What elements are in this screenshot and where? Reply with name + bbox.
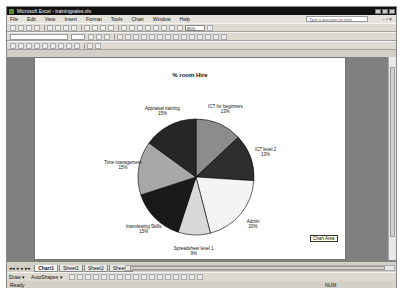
- reply-changes-icon[interactable]: [87, 43, 93, 49]
- underline-icon[interactable]: [104, 34, 110, 40]
- format-chart-area-icon[interactable]: [18, 43, 24, 49]
- cut-icon[interactable]: [84, 25, 90, 31]
- angle-text-down-icon[interactable]: [66, 43, 72, 49]
- copy-icon[interactable]: [92, 25, 98, 31]
- menu-file[interactable]: File: [10, 16, 18, 22]
- align-right-icon[interactable]: [133, 34, 139, 40]
- line-icon[interactable]: [69, 274, 75, 280]
- legend-icon[interactable]: [34, 43, 40, 49]
- chart-type-icon[interactable]: [26, 43, 32, 49]
- bold-icon[interactable]: [88, 34, 94, 40]
- fill-color-icon[interactable]: [141, 274, 147, 280]
- line-color-icon[interactable]: [149, 274, 155, 280]
- increase-decimal-icon[interactable]: [173, 34, 179, 40]
- help-search-input[interactable]: Type a question for help: [306, 16, 368, 22]
- tab-sheet2[interactable]: Sheet2: [84, 265, 108, 272]
- 3d-icon[interactable]: [197, 274, 203, 280]
- wordart-icon[interactable]: [109, 274, 115, 280]
- menu-window[interactable]: Window: [153, 16, 171, 22]
- by-row-icon[interactable]: [50, 43, 56, 49]
- toolbar-separator: [84, 43, 85, 49]
- percent-icon[interactable]: [157, 34, 163, 40]
- sort-descending-icon[interactable]: [161, 25, 167, 31]
- decrease-indent-icon[interactable]: [189, 34, 195, 40]
- close-button[interactable]: [389, 9, 395, 14]
- by-column-icon[interactable]: [58, 43, 64, 49]
- zoom-select[interactable]: 85%: [185, 25, 205, 31]
- autosum-icon[interactable]: [145, 25, 151, 31]
- pie-data-label: Time management15%: [103, 160, 143, 170]
- align-left-icon[interactable]: [117, 34, 123, 40]
- autoshapes-menu-button[interactable]: AutoShapes ▾: [31, 274, 63, 280]
- save-icon[interactable]: [26, 25, 32, 31]
- line-style-icon[interactable]: [165, 274, 171, 280]
- fill-color-icon[interactable]: [213, 34, 219, 40]
- menu-chart[interactable]: Chart: [131, 16, 143, 22]
- borders-icon[interactable]: [205, 34, 211, 40]
- print-icon[interactable]: [47, 25, 53, 31]
- horizontal-scroll-thumb[interactable]: [130, 266, 385, 270]
- align-center-icon[interactable]: [125, 34, 131, 40]
- spelling-icon[interactable]: [63, 25, 69, 31]
- font-name-select[interactable]: [10, 34, 68, 40]
- redo-icon[interactable]: [129, 25, 135, 31]
- sheet-nav-arrows[interactable]: ◂◂ ◂ ▸ ▸▸: [9, 265, 31, 271]
- data-table-icon[interactable]: [42, 43, 48, 49]
- help-icon[interactable]: [207, 25, 213, 31]
- chart-objects-icon[interactable]: [10, 43, 16, 49]
- chart-sheet[interactable]: % room Hire ICT for beginners13%ICT leve…: [34, 57, 346, 260]
- font-size-select[interactable]: [71, 34, 85, 40]
- oval-icon[interactable]: [93, 274, 99, 280]
- decrease-decimal-icon[interactable]: [181, 34, 187, 40]
- menu-insert[interactable]: Insert: [64, 16, 77, 22]
- pie-data-label: Spreadsheet level 19%: [174, 246, 214, 256]
- research-icon[interactable]: [71, 25, 77, 31]
- tab-chart1[interactable]: Chart1: [34, 265, 58, 272]
- rectangle-icon[interactable]: [85, 274, 91, 280]
- menu-format[interactable]: Format: [86, 16, 102, 22]
- maximize-button[interactable]: [382, 9, 388, 14]
- permission-icon[interactable]: [34, 25, 40, 31]
- paste-icon[interactable]: [100, 25, 106, 31]
- horizontal-scrollbar[interactable]: [125, 265, 395, 271]
- minimize-button[interactable]: [375, 9, 381, 14]
- diagram-icon[interactable]: [117, 274, 123, 280]
- open-icon[interactable]: [18, 25, 24, 31]
- pie-chart[interactable]: [35, 58, 347, 261]
- picture-icon[interactable]: [133, 274, 139, 280]
- menu-tools[interactable]: Tools: [111, 16, 123, 22]
- textbox-icon[interactable]: [101, 274, 107, 280]
- dash-style-icon[interactable]: [173, 274, 179, 280]
- drawing-icon[interactable]: [177, 25, 183, 31]
- font-color-icon[interactable]: [157, 274, 163, 280]
- angle-text-up-icon[interactable]: [74, 43, 80, 49]
- arrow-style-icon[interactable]: [181, 274, 187, 280]
- chart-wizard-icon[interactable]: [169, 25, 175, 31]
- pie-data-label: Appraisal training15%: [142, 106, 182, 116]
- vertical-scroll-thumb[interactable]: [390, 67, 395, 237]
- italic-icon[interactable]: [96, 34, 102, 40]
- sort-ascending-icon[interactable]: [153, 25, 159, 31]
- format-painter-icon[interactable]: [108, 25, 114, 31]
- print-preview-icon[interactable]: [55, 25, 61, 31]
- workbook-window-controls[interactable]: - ▫ ×: [383, 16, 392, 22]
- menu-help[interactable]: Help: [180, 16, 190, 22]
- hyperlink-icon[interactable]: [137, 25, 143, 31]
- shadow-icon[interactable]: [189, 274, 195, 280]
- menu-edit[interactable]: Edit: [27, 16, 36, 22]
- draw-menu-button[interactable]: Draw ▾: [9, 274, 25, 280]
- arrow-icon[interactable]: [77, 274, 83, 280]
- new-icon[interactable]: [10, 25, 16, 31]
- merge-center-icon[interactable]: [141, 34, 147, 40]
- increase-indent-icon[interactable]: [197, 34, 203, 40]
- undo-icon[interactable]: [121, 25, 127, 31]
- font-color-icon[interactable]: [221, 34, 227, 40]
- end-review-icon[interactable]: [95, 43, 101, 49]
- menu-view[interactable]: View: [45, 16, 56, 22]
- comma-icon[interactable]: [165, 34, 171, 40]
- drawing-toolbar: Draw ▾ AutoShapes ▾: [7, 272, 396, 281]
- currency-icon[interactable]: [149, 34, 155, 40]
- clipart-icon[interactable]: [125, 274, 131, 280]
- vertical-scrollbar[interactable]: [388, 57, 396, 260]
- tab-sheet1[interactable]: Sheet1: [59, 265, 83, 272]
